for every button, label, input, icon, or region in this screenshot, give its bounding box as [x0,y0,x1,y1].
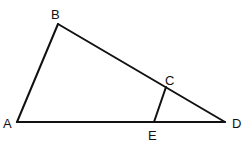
segment-ab [17,24,58,122]
label-b: B [51,7,60,22]
label-c: C [165,73,174,88]
label-a: A [3,116,12,131]
label-d: D [232,116,241,131]
segment-ce [154,87,166,122]
triangle-diagram: B A D C E [0,0,247,150]
segment-bd [58,24,225,122]
label-e: E [148,128,157,143]
